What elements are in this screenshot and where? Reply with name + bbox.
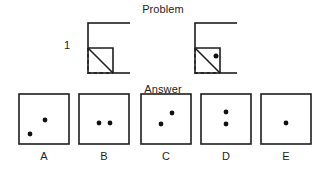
answer-option-d-drawing — [200, 93, 252, 145]
answer-dot — [28, 132, 33, 137]
answer-option-e-label: E — [260, 150, 312, 162]
answer-option-b-label: B — [78, 150, 130, 162]
punch-step-drawing — [187, 15, 237, 85]
answer-square-outline — [261, 94, 311, 144]
answer-option-b-drawing — [78, 93, 130, 145]
fold-step-drawing — [80, 15, 130, 85]
answer-option-a[interactable] — [18, 93, 70, 145]
answer-option-b[interactable] — [78, 93, 130, 145]
answer-option-a-drawing — [18, 93, 70, 145]
punched-hole-dot — [214, 54, 219, 59]
answer-option-d[interactable] — [200, 93, 252, 145]
answer-option-c[interactable] — [140, 93, 192, 145]
problem-row-number: 1 — [64, 39, 70, 51]
answer-dot — [170, 111, 175, 116]
answer-square-outline — [79, 94, 129, 144]
answer-dot — [108, 121, 113, 126]
answer-dot — [97, 121, 102, 126]
answer-option-e-drawing — [260, 93, 312, 145]
problem-figure-punch-step — [187, 15, 237, 85]
answer-square-outline — [201, 94, 251, 144]
answer-dot — [43, 118, 48, 123]
answer-dot — [159, 122, 164, 127]
answer-dot — [224, 122, 229, 127]
answer-option-a-label: A — [18, 150, 70, 162]
answer-option-c-drawing — [140, 93, 192, 145]
puzzle-canvas: Problem 1 Answer A — [0, 0, 326, 172]
answer-option-c-label: C — [140, 150, 192, 162]
answer-dot — [224, 110, 229, 115]
answer-option-e[interactable] — [260, 93, 312, 145]
problem-section-title: Problem — [0, 3, 326, 15]
answer-option-d-label: D — [200, 150, 252, 162]
answer-square-outline — [141, 94, 191, 144]
answer-dot — [284, 121, 289, 126]
problem-figure-fold-step — [80, 15, 130, 85]
